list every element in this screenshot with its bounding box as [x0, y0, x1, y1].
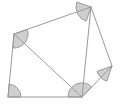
- figure-canvas: [0, 0, 127, 105]
- geometry-figure: [0, 0, 127, 105]
- diagonal-top-left-to-bottom-right: [14, 34, 82, 97]
- upper-right-edge: [91, 7, 112, 66]
- angle-mark-bottom-left: [8, 84, 21, 97]
- polygon-edges-group: [8, 7, 112, 97]
- top-edge: [14, 7, 91, 34]
- lower-right-edge: [82, 66, 112, 97]
